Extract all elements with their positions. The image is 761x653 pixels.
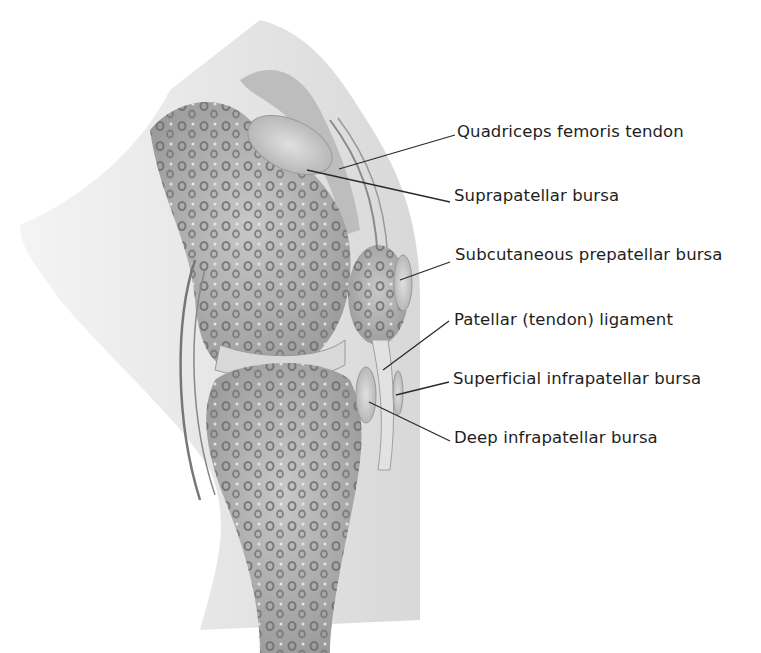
deep-infrapatellar-bursa [356,367,376,423]
label-superficial-infrapatellar-bursa: Superficial infrapatellar bursa [453,369,701,388]
label-quadriceps-femoris-tendon: Quadriceps femoris tendon [457,122,684,141]
label-deep-infrapatellar-bursa: Deep infrapatellar bursa [454,428,658,447]
label-suprapatellar-bursa: Suprapatellar bursa [454,186,619,205]
label-subcutaneous-prepatellar-bursa: Subcutaneous prepatellar bursa [455,245,723,264]
label-patellar-ligament: Patellar (tendon) ligament [454,310,673,329]
prepatellar-bursa [394,255,412,311]
